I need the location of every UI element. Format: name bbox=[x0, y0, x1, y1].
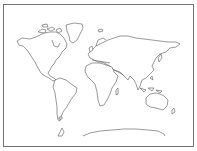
region-philippines bbox=[150, 76, 153, 80]
world-map bbox=[0, 0, 197, 151]
world-map-svg bbox=[0, 0, 197, 151]
region-north-america bbox=[17, 32, 67, 81]
region-greenland bbox=[66, 23, 83, 43]
region-australia bbox=[146, 93, 168, 110]
region-new-zealand bbox=[172, 108, 175, 114]
region-antarctic-peninsula bbox=[58, 128, 64, 136]
region-antarctica bbox=[83, 129, 165, 136]
region-indonesia bbox=[140, 88, 162, 93]
region-iceland bbox=[98, 29, 103, 32]
region-south-america bbox=[53, 78, 77, 121]
region-africa bbox=[85, 63, 118, 106]
region-madagascar bbox=[116, 88, 118, 95]
region-arctic-islands bbox=[38, 24, 62, 33]
region-tierra-del-fuego bbox=[59, 117, 62, 119]
